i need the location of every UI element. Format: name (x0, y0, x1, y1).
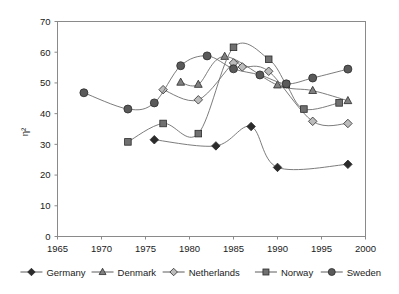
y-tick-label: 10 (40, 200, 51, 211)
y-tick-label: 40 (40, 108, 51, 119)
x-tick-label: 2000 (355, 243, 376, 254)
line-chart: 010203040506070 196519701975198019851990… (0, 0, 399, 294)
data-point-norway (195, 130, 202, 137)
y-tick-label: 50 (40, 77, 51, 88)
x-axis-tick-labels: 19651970197519801985199019952000 (47, 237, 376, 254)
legend-marker-denmark (99, 268, 106, 274)
x-tick-label: 1985 (223, 243, 244, 254)
data-point-sweden (203, 52, 211, 60)
chart-container: 010203040506070 196519701975198019851990… (0, 0, 399, 294)
data-point-sweden (256, 71, 264, 79)
data-point-norway (125, 139, 132, 146)
data-point-norway (160, 120, 167, 127)
data-point-sweden (177, 62, 185, 70)
x-tick-label: 1990 (267, 243, 288, 254)
data-point-sweden (230, 65, 238, 73)
y-axis-tick-labels: 010203040506070 (40, 16, 58, 242)
legend-item-germany[interactable]: Germany (20, 267, 85, 278)
legend-label-denmark: Denmark (118, 267, 157, 278)
data-point-norway (230, 44, 237, 51)
y-tick-label: 0 (45, 231, 50, 242)
data-point-germany (273, 163, 282, 172)
x-tick-label: 1980 (179, 243, 200, 254)
x-tick-label: 1965 (47, 243, 68, 254)
legend-label-netherlands: Netherlands (189, 267, 240, 278)
legend-label-norway: Norway (281, 267, 313, 278)
legend-marker-sweden (328, 269, 335, 276)
series-line-sweden (84, 56, 348, 110)
data-point-norway (265, 56, 272, 63)
legend-item-netherlands[interactable]: Netherlands (163, 267, 240, 278)
legend-item-norway[interactable]: Norway (255, 267, 313, 278)
data-point-germany (150, 136, 159, 145)
legend-label-germany: Germany (46, 267, 85, 278)
plot-frame (58, 22, 366, 237)
legend-marker-norway (263, 269, 269, 275)
data-point-netherlands (308, 117, 317, 126)
legend-label-sweden: Sweden (347, 267, 381, 278)
data-point-denmark (177, 78, 185, 85)
series-germany (150, 122, 352, 171)
data-point-sweden (282, 80, 290, 88)
legend-marker-germany (28, 268, 36, 276)
y-tick-label: 70 (40, 16, 51, 27)
x-tick-label: 1975 (135, 243, 156, 254)
legend-marker-netherlands (170, 268, 178, 276)
data-point-norway (336, 100, 343, 107)
y-tick-label: 20 (40, 169, 51, 180)
data-point-germany (212, 142, 221, 151)
data-point-sweden (150, 99, 158, 107)
legend-item-sweden[interactable]: Sweden (321, 267, 381, 278)
series-line-netherlands (163, 61, 348, 126)
data-point-norway (301, 106, 308, 113)
legend-item-denmark[interactable]: Denmark (92, 267, 157, 278)
y-tick-label: 60 (40, 47, 51, 58)
chart-legend: GermanyDenmarkNetherlandsNorwaySweden (20, 267, 381, 278)
series-denmark (177, 52, 352, 103)
data-point-netherlands (344, 119, 353, 128)
series-line-germany (154, 126, 348, 170)
x-tick-label: 1995 (311, 243, 332, 254)
data-point-sweden (344, 65, 352, 73)
data-point-germany (344, 160, 353, 169)
data-point-sweden (80, 89, 88, 97)
series-sweden (80, 52, 352, 113)
data-point-germany (247, 122, 256, 131)
data-point-sweden (124, 105, 132, 113)
plot-frame-group (58, 22, 366, 237)
data-series-layer (80, 43, 352, 172)
y-tick-label: 30 (40, 139, 51, 150)
x-tick-label: 1970 (91, 243, 112, 254)
data-point-sweden (309, 74, 317, 82)
data-point-netherlands (194, 96, 203, 105)
y-axis-title: η² (19, 128, 30, 136)
y-axis-title-group: η² (19, 128, 30, 136)
